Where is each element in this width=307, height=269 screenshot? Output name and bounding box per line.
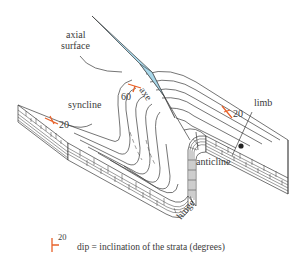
limb-label: limb: [254, 97, 272, 108]
dip-left-value: 20: [59, 119, 69, 130]
legend-text: dip = inclination of the strata (degrees…: [77, 242, 225, 253]
axial-surface-label-2: surface: [61, 40, 90, 51]
axial-surface-label-1: axial: [66, 29, 86, 40]
dip-center-value: 60: [121, 91, 131, 102]
anticline-label: anticline: [196, 156, 231, 167]
legend: 20 dip = inclination of the strata (degr…: [52, 232, 225, 253]
legend-dip-value: 20: [58, 232, 67, 242]
dip-symbol-right: [222, 106, 232, 118]
dip-right-value: 20: [233, 108, 243, 119]
syncline-label: syncline: [68, 99, 102, 110]
axial-surface-leader: [80, 56, 122, 72]
limb-point: [238, 143, 243, 148]
axial-surface-plane: [92, 16, 164, 96]
fold-diagram: axial surface syncline 20 60 axe 20 limb…: [0, 0, 307, 269]
fold-top-surface: [18, 71, 288, 194]
